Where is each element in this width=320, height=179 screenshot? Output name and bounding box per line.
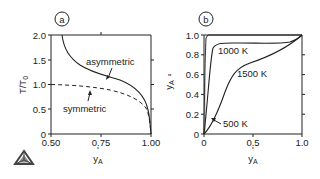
panel-a-y-ticks [48, 32, 154, 137]
panel-b-ytick: 0.4 [186, 89, 199, 100]
symmetric-label: symmetric [63, 103, 107, 114]
label-500K: 500 K [223, 118, 248, 129]
symmetric-arrowhead [88, 90, 92, 95]
panel-a: a 0 0.5 1.0 1.5 2.0 0.50 0.75 1.00 T/T0 [17, 12, 160, 165]
panel-b-ytick: 1.0 [186, 30, 199, 41]
arrowhead-500K [211, 118, 216, 122]
asymmetric-label: asymmetric [86, 56, 135, 67]
panel-b-ytick: 0.8 [186, 49, 199, 60]
panel-b-xlabel-prime: ' [252, 144, 254, 155]
panel-b-ytick: 0.2 [186, 109, 199, 120]
panel-b-ytick: 0 [194, 129, 199, 140]
panel-a-ytick: 2.0 [33, 30, 46, 41]
panel-a-xtick: 0.50 [42, 137, 61, 148]
panel-a-ytick: 1.0 [33, 79, 46, 90]
panel-b-ylabel-doubleprime: " [168, 71, 171, 82]
panel-a-ylabel: T/T0 [17, 76, 29, 94]
panel-b: b 0 0.2 0.4 0.6 0.8 1.0 0 0.5 1.0 yA " y… [163, 12, 309, 165]
panel-a-tag: a [59, 14, 65, 25]
panel-a-xlabel-prime: ' [97, 144, 99, 155]
thermo-calc-logo-icon [15, 151, 33, 164]
panel-a-ytick: 0.5 [33, 104, 46, 115]
asymmetric-curve [62, 35, 151, 134]
svg-text:T/T0: T/T0 [17, 76, 29, 94]
panel-a-xtick: 0.75 [92, 137, 111, 148]
panel-b-xtick: 1.0 [295, 137, 308, 148]
panel-a-ytick: 1.5 [33, 55, 46, 66]
panel-b-tag: b [203, 14, 208, 25]
figure: a 0 0.5 1.0 1.5 2.0 0.50 0.75 1.00 T/T0 [0, 0, 320, 179]
panel-b-xtick: 0 [201, 137, 206, 148]
panel-b-ytick: 0.6 [186, 69, 199, 80]
panel-a-xtick: 1.00 [142, 137, 161, 148]
arrow-500K [214, 120, 221, 124]
label-1500K: 1500 K [237, 68, 268, 79]
label-1000K: 1000 K [218, 45, 249, 56]
